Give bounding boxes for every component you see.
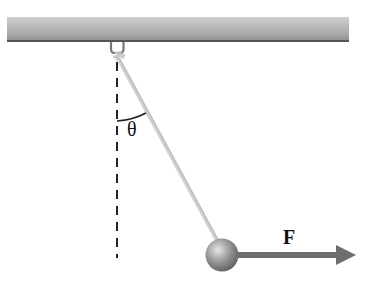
string-shade xyxy=(119,58,219,242)
pendulum-bob xyxy=(206,239,239,272)
force-arrow xyxy=(236,245,356,265)
pendulum-string xyxy=(118,58,218,242)
ceiling-bar xyxy=(7,17,349,42)
angle-label: θ xyxy=(127,118,137,141)
pendulum-diagram xyxy=(0,0,366,287)
force-label: F xyxy=(283,226,295,249)
